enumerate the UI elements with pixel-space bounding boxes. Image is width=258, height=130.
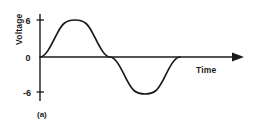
x-axis-arrowhead [232,53,244,62]
y-tick-label-zero: 0 [25,53,30,63]
y-tick-label-negative-six: -6 [23,88,31,98]
y-axis-label: Voltage [14,13,24,45]
figure-caption: (a) [37,110,47,119]
y-tick-label-positive-six: 6 [25,16,30,26]
waveform-figure: Voltage Time 6 0 -6 (a) [0,0,258,130]
x-axis-label: Time [196,65,217,75]
sine-wave-plot: Voltage Time 6 0 -6 (a) [0,0,258,130]
